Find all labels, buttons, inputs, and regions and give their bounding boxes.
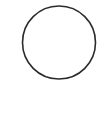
canvas <box>0 0 105 113</box>
circle-outline <box>23 6 96 79</box>
circle-icon <box>0 0 105 113</box>
